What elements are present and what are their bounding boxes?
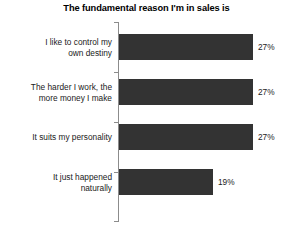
category-label: It just happened naturally — [2, 160, 112, 205]
bar-row: It just happened naturally 19% — [0, 160, 293, 205]
bar-track — [119, 169, 213, 195]
category-label: It suits my personality — [2, 115, 112, 160]
bar-track — [119, 34, 253, 60]
bar-row: The harder I work, the more money I make… — [0, 70, 293, 115]
axis-tick — [114, 22, 118, 23]
bar-segment — [119, 34, 253, 60]
bar-segment — [119, 169, 213, 195]
bar-segment — [119, 124, 253, 150]
bar-value-label: 19% — [218, 169, 235, 195]
axis-tick — [114, 221, 118, 222]
bar-chart: The fundamental reason I'm in sales is I… — [0, 0, 293, 235]
bar-track — [119, 79, 253, 105]
bar-value-label: 27% — [258, 34, 275, 60]
category-label: The harder I work, the more money I make — [2, 70, 112, 115]
bar-row: I like to control my own destiny 27% — [0, 25, 293, 70]
bar-track — [119, 124, 253, 150]
bar-segment — [119, 79, 253, 105]
bar-value-label: 27% — [258, 79, 275, 105]
bar-value-label: 27% — [258, 124, 275, 150]
category-label: I like to control my own destiny — [2, 25, 112, 70]
bar-row: It suits my personality 27% — [0, 115, 293, 160]
plot-area: I like to control my own destiny 27% The… — [0, 0, 293, 235]
